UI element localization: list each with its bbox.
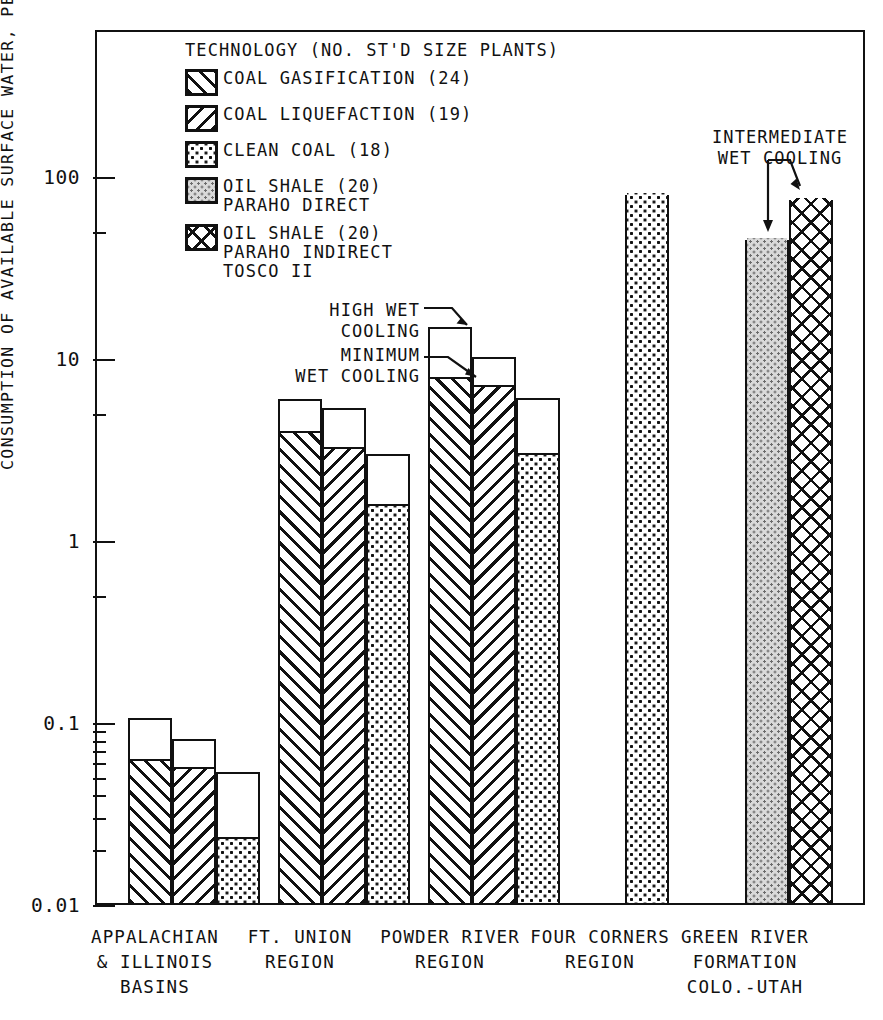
y-tick-minor bbox=[93, 818, 106, 820]
legend-label: COAL LIQUEFACTION (19) bbox=[223, 105, 472, 124]
y-tick-minor bbox=[93, 763, 106, 765]
y-tick-major bbox=[93, 359, 115, 361]
y-tick-minor bbox=[93, 731, 106, 733]
y-tick-major bbox=[93, 177, 115, 179]
y-tick-major bbox=[93, 723, 115, 725]
bar bbox=[322, 408, 366, 905]
bar bbox=[745, 240, 789, 905]
bar-segment-minimum-wet-cooling bbox=[130, 759, 170, 903]
bar bbox=[789, 200, 833, 905]
y-tick-label: 1 bbox=[0, 530, 80, 553]
y-tick-major bbox=[93, 905, 115, 907]
bar bbox=[625, 195, 669, 905]
legend-label: COAL GASIFICATION (24) bbox=[223, 69, 472, 88]
legend: TECHNOLOGY (NO. ST'D SIZE PLANTS) COAL G… bbox=[185, 40, 559, 290]
y-tick-minor bbox=[93, 778, 106, 780]
bar bbox=[172, 739, 216, 905]
bar-segment-minimum-wet-cooling bbox=[368, 504, 408, 903]
legend-item: OIL SHALE (20) PARAHO DIRECT bbox=[185, 177, 559, 215]
y-tick-minor bbox=[93, 596, 106, 598]
y-tick-minor bbox=[93, 232, 106, 234]
legend-title: TECHNOLOGY (NO. ST'D SIZE PLANTS) bbox=[185, 40, 559, 60]
bar-segment-minimum-wet-cooling bbox=[324, 447, 364, 903]
legend-swatch-gasification bbox=[185, 69, 218, 96]
bar bbox=[216, 772, 260, 905]
bar bbox=[366, 454, 410, 905]
legend-label: OIL SHALE (20) PARAHO DIRECT bbox=[223, 177, 382, 215]
bar-segment-minimum-wet-cooling bbox=[518, 453, 558, 903]
chart-figure: CONSUMPTION OF AVAILABLE SURFACE WATER, … bbox=[0, 0, 883, 1020]
bar-segment-minimum-wet-cooling bbox=[430, 377, 470, 903]
y-tick-label: 0.01 bbox=[0, 894, 80, 917]
y-tick-minor bbox=[93, 741, 106, 743]
y-tick-minor bbox=[93, 795, 106, 797]
legend-label: OIL SHALE (20) PARAHO INDIRECT TOSCO II bbox=[223, 224, 393, 281]
bar bbox=[128, 718, 172, 905]
bar bbox=[428, 327, 472, 905]
legend-item: CLEAN COAL (18) bbox=[185, 141, 559, 168]
x-axis-label: FT. UNION REGION bbox=[215, 925, 385, 975]
legend-items: COAL GASIFICATION (24)COAL LIQUEFACTION … bbox=[185, 69, 559, 281]
bar bbox=[516, 398, 560, 905]
bar-segment-minimum-wet-cooling bbox=[747, 238, 787, 903]
legend-label: CLEAN COAL (18) bbox=[223, 141, 393, 160]
legend-swatch-paraho_direct bbox=[185, 177, 218, 204]
legend-item: OIL SHALE (20) PARAHO INDIRECT TOSCO II bbox=[185, 224, 559, 281]
y-tick-minor bbox=[93, 414, 106, 416]
bar-segment-minimum-wet-cooling bbox=[280, 431, 320, 903]
y-tick-label: 0.1 bbox=[0, 712, 80, 735]
bar-segment-minimum-wet-cooling bbox=[627, 193, 667, 903]
y-axis-title: CONSUMPTION OF AVAILABLE SURFACE WATER, … bbox=[0, 0, 17, 470]
annotation-minimum-wet-cooling: MINIMUM WET COOLING bbox=[195, 345, 420, 387]
y-tick-minor bbox=[93, 850, 106, 852]
annotation-high-wet-cooling: HIGH WET COOLING bbox=[250, 300, 420, 342]
legend-swatch-paraho_indirect bbox=[185, 224, 218, 251]
bar bbox=[278, 399, 322, 905]
annotation-intermediate-wet-cooling: INTERMEDIATE WET COOLING bbox=[690, 127, 870, 169]
legend-swatch-cleancoal bbox=[185, 141, 218, 168]
bar-segment-minimum-wet-cooling bbox=[174, 767, 214, 903]
bar-segment-minimum-wet-cooling bbox=[474, 385, 514, 903]
legend-item: COAL LIQUEFACTION (19) bbox=[185, 105, 559, 132]
y-tick-minor bbox=[93, 751, 106, 753]
y-tick-label: 10 bbox=[0, 348, 80, 371]
x-axis-label: POWDER RIVER REGION bbox=[365, 925, 535, 975]
bar-segment-minimum-wet-cooling bbox=[218, 837, 258, 903]
bar bbox=[472, 357, 516, 905]
y-tick-label: 100 bbox=[0, 166, 80, 189]
legend-item: COAL GASIFICATION (24) bbox=[185, 69, 559, 96]
bar-segment-minimum-wet-cooling bbox=[791, 198, 831, 903]
y-tick-major bbox=[93, 541, 115, 543]
x-axis-label: GREEN RIVER FORMATION COLO.-UTAH bbox=[660, 925, 830, 1000]
legend-swatch-liquefaction bbox=[185, 105, 218, 132]
